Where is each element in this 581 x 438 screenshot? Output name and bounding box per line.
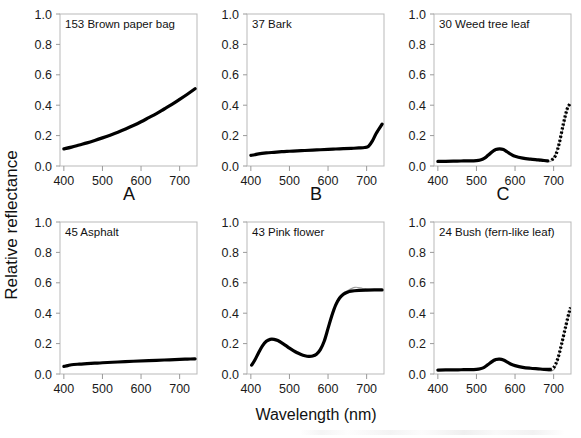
y-tick-label: 0.2 [222,129,239,143]
y-tick-label: 1.0 [35,8,52,22]
y-tick-label: 1.0 [409,8,426,22]
x-tick-label: 400 [427,174,448,188]
y-tick-label: 0.0 [222,368,239,382]
x-tick-label: 600 [505,382,526,396]
y-axis-label: Relative reflectance [2,150,21,299]
x-tick-label: 500 [279,174,300,188]
y-tick-label: 0.2 [222,337,239,351]
y-tick-label: 0.2 [409,129,426,143]
y-tick-label: 0.4 [409,99,426,113]
y-tick-label: 0.6 [35,68,52,82]
y-tick-label: 0.0 [222,160,239,174]
x-tick-label: 600 [318,382,339,396]
y-tick-label: 1.0 [222,8,239,22]
panel-title: 43 Pink flower [252,226,324,238]
y-tick-label: 0.4 [35,99,52,113]
y-tick-label: 0.8 [35,38,52,52]
plot-frame [247,222,384,374]
y-tick-label: 0.4 [35,307,52,321]
y-tick-label: 0.8 [35,246,52,260]
panel-title: 30 Weed tree leaf [439,18,530,30]
x-tick-label: 500 [92,382,113,396]
y-tick-label: 0.6 [222,276,239,290]
x-tick-label: 600 [131,382,152,396]
x-tick-label: 700 [356,174,377,188]
panel-letter-c: C [497,184,510,204]
x-tick-label: 500 [279,382,300,396]
x-tick-label: 700 [169,382,190,396]
panel-letter-a: A [123,184,135,204]
x-tick-label: 700 [543,174,564,188]
x-tick-label: 500 [466,382,487,396]
y-tick-label: 0.0 [35,160,52,174]
panel-title: 153 Brown paper bag [65,18,175,30]
x-tick-label: 700 [543,382,564,396]
y-tick-label: 0.2 [35,129,52,143]
y-tick-label: 0.0 [409,368,426,382]
y-tick-label: 0.2 [409,337,426,351]
y-tick-label: 0.6 [409,68,426,82]
y-tick-label: 0.0 [35,368,52,382]
y-tick-label: 0.8 [222,246,239,260]
y-tick-label: 0.4 [222,99,239,113]
y-tick-label: 0.6 [222,68,239,82]
y-tick-label: 1.0 [222,216,239,230]
panel-title: 37 Bark [252,18,292,30]
y-tick-label: 0.4 [409,307,426,321]
y-tick-label: 0.4 [222,307,239,321]
x-tick-label: 400 [53,382,74,396]
x-tick-label: 400 [53,174,74,188]
x-tick-label: 700 [169,174,190,188]
panel-letter-b: B [310,184,322,204]
plot-frame [434,14,571,166]
y-tick-label: 0.8 [409,38,426,52]
x-axis-label: Wavelength (nm) [255,406,376,423]
y-tick-label: 0.8 [409,246,426,260]
panel-title: 45 Asphalt [65,226,120,238]
x-tick-label: 500 [92,174,113,188]
y-tick-label: 0.2 [35,337,52,351]
x-tick-label: 400 [240,382,261,396]
y-tick-label: 0.6 [35,276,52,290]
page-edge-artifact [300,430,565,435]
x-tick-label: 700 [356,382,377,396]
y-tick-label: 1.0 [409,216,426,230]
x-tick-label: 400 [240,174,261,188]
y-tick-label: 1.0 [35,216,52,230]
plot-frame [247,14,384,166]
plot-frame [60,222,197,374]
y-tick-label: 0.8 [222,38,239,52]
y-tick-label: 0.6 [409,276,426,290]
y-tick-label: 0.0 [409,160,426,174]
panel-title: 24 Bush (fern-like leaf) [439,226,555,238]
spectral-reflectance-figure: 0.00.20.40.60.81.0400500600700153 Brown … [0,0,581,438]
plot-frame [434,222,571,374]
x-tick-label: 400 [427,382,448,396]
x-tick-label: 500 [466,174,487,188]
